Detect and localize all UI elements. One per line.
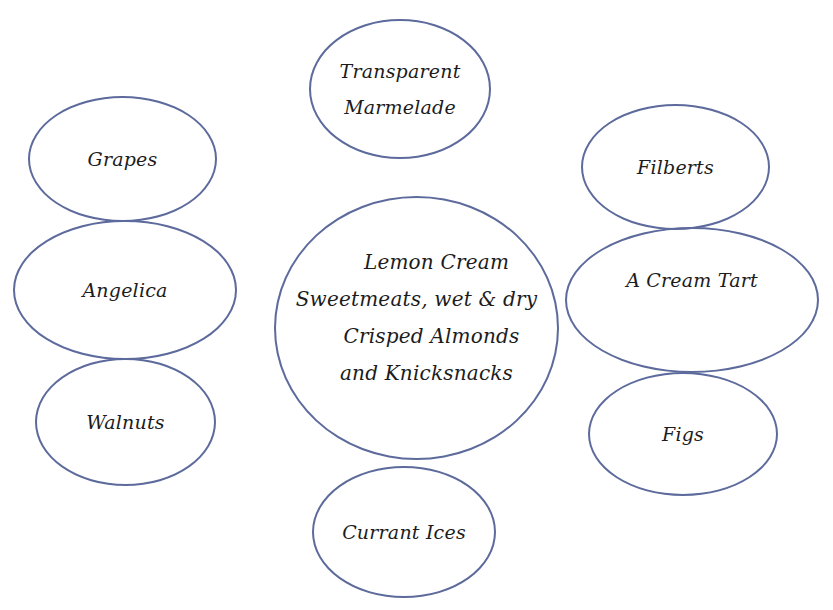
dish-figs: Figs bbox=[588, 372, 778, 496]
dish-walnuts: Walnuts bbox=[35, 358, 216, 486]
dish-label: Sweetmeats, wet & dry bbox=[296, 281, 538, 318]
dish-label: A Cream Tart bbox=[626, 262, 758, 298]
dish-label: Marmelade bbox=[344, 89, 456, 125]
dish-grapes: Grapes bbox=[28, 96, 217, 222]
dish-label: Angelica bbox=[82, 272, 167, 308]
dish-label: Transparent bbox=[340, 53, 461, 89]
dish-center: Lemon Cream Sweetmeats, wet & dry Crispe… bbox=[274, 196, 559, 460]
dish-label: Lemon Cream bbox=[324, 244, 509, 281]
dish-currant-ices: Currant Ices bbox=[312, 466, 496, 598]
dish-label: Walnuts bbox=[86, 404, 165, 440]
dish-angelica: Angelica bbox=[13, 220, 237, 360]
dish-transparent-marmalade: Transparent Marmelade bbox=[309, 19, 491, 159]
dish-label: and Knicksnacks bbox=[320, 355, 513, 392]
dish-label: Grapes bbox=[88, 141, 158, 177]
dish-filberts: Filberts bbox=[581, 104, 770, 230]
dish-label: Crisped Almonds bbox=[313, 318, 519, 355]
dish-label: Currant Ices bbox=[342, 514, 466, 550]
dish-label: Figs bbox=[662, 416, 704, 452]
dish-cream-tart: A Cream Tart bbox=[565, 227, 819, 373]
dish-label: Filberts bbox=[637, 149, 714, 185]
